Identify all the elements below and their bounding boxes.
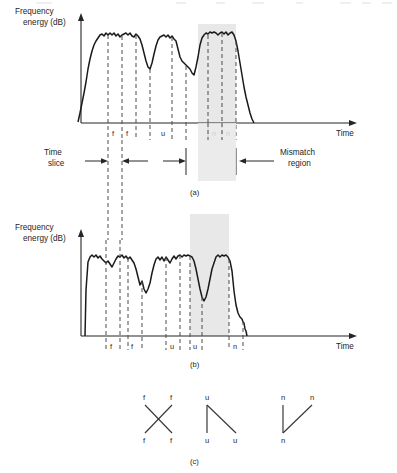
y-axis-label-a-line2: energy (dB) [23,18,66,27]
mismatch-region-shading-a-lower [198,123,236,181]
annotation-mismatch-region: Mismatch region [239,148,315,168]
mismatch-region-shading-b [190,214,229,336]
node-f-bottom-left: f [143,436,146,445]
node-u-bottom-right: u [233,436,237,445]
node-f-top-left: f [143,393,146,402]
node-f-top-right: f [170,393,173,402]
caption-a: (a) [190,188,200,197]
speech-alignment-figure: Frequency energy (dB) Time f f u n [0,0,397,473]
figure-container: Frequency energy (dB) Time f f u n [0,0,397,473]
top-cutoff-artifact [36,2,392,4]
phoneme-label-b-3: u [193,342,197,351]
mismatch-label-line1: Mismatch [280,148,315,157]
phoneme-label-b-0: f [110,342,113,351]
panel-c-n-group: n n n [281,393,314,445]
node-n-bottom: n [281,436,285,445]
x-axis-label-b: Time [336,342,354,351]
phoneme-label-a-2: u [161,129,165,138]
y-axis-label-a-line1: Frequency [15,7,55,16]
node-n-top-right: n [310,393,314,402]
time-slice-label-line2: slice [48,159,65,168]
time-slice-label-line1: Time [44,148,62,157]
phoneme-label-a-1: f [126,129,129,138]
y-axis-label-b-line2: energy (dB) [23,234,66,243]
panel-b: Frequency energy (dB) Time f f u u n (b) [15,214,357,369]
mismatch-region-shading-a [198,24,236,123]
y-axis-label-b-line1: Frequency [15,223,55,232]
panel-a: Frequency energy (dB) Time f f u n [15,7,357,240]
caption-b: (b) [190,360,200,369]
time-slice-extension-lines-a [108,140,122,240]
node-n-top-left: n [281,393,285,402]
node-f-bottom-right: f [170,436,173,445]
caption-c: (c) [190,457,199,466]
panel-c-f-group: f f f f [143,393,173,445]
annotation-time-slice: Time slice [44,148,108,168]
phoneme-label-b-1: f [131,342,134,351]
panel-c-u-group: u u u [205,393,237,445]
phoneme-label-b-2: u [170,342,174,351]
phoneme-label-b-4: n [233,342,237,351]
phoneme-labels-b: f f u u n [110,342,237,351]
phoneme-label-a-0: f [112,129,115,138]
y-axis-b [78,229,84,336]
panel-c: f f f f u u u n n n (c) [143,393,314,466]
mismatch-label-line2: region [288,159,311,168]
node-u-top: u [205,393,209,402]
node-u-bottom-left: u [205,436,209,445]
x-axis-label-a: Time [336,129,354,138]
